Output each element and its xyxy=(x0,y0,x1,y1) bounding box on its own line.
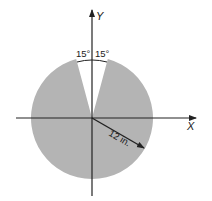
y-axis-label: Y xyxy=(96,10,104,22)
sector-diagram: Y X 15° 15° 12 in. xyxy=(0,0,212,201)
x-axis-label: X xyxy=(186,120,195,132)
right-angle-label: 15° xyxy=(95,48,110,59)
left-angle-label: 15° xyxy=(76,48,91,59)
